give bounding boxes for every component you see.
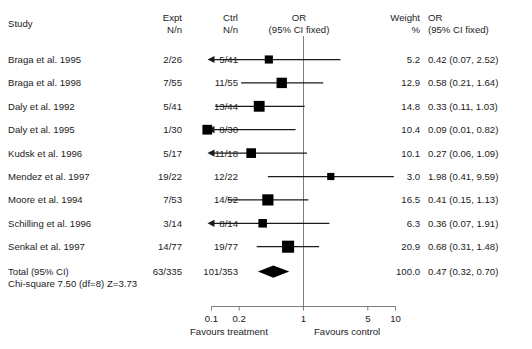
study-expt-n: 5/17	[130, 148, 182, 159]
effect-size-marker	[258, 219, 267, 228]
study-label: Daly et al. 1992	[8, 101, 75, 112]
study-ctrl-n: 8/30	[186, 124, 238, 135]
column-header-weight-sub: %	[372, 24, 420, 35]
study-expt-n: 3/14	[130, 218, 182, 229]
study-ctrl-n: 8/14	[186, 218, 238, 229]
study-label: Kudsk et al. 1996	[8, 148, 82, 159]
x-axis-tick-label: 10	[382, 313, 410, 324]
study-ctrl-n: 5/41	[186, 54, 238, 65]
study-ctrl-n: 13/44	[186, 101, 238, 112]
favours-treatment-label: Favours treatment	[190, 326, 268, 337]
study-or-value: 0.42 (0.07, 2.52)	[428, 54, 528, 65]
study-row-graphic	[228, 194, 309, 205]
total-label: Total (95% CI)	[8, 266, 69, 277]
effect-size-marker	[277, 78, 287, 88]
study-or-value: 0.41 (0.15, 1.13)	[428, 194, 528, 205]
study-expt-n: 14/77	[130, 241, 182, 252]
study-label: Moore et al. 1994	[8, 194, 83, 205]
effect-size-marker	[246, 148, 256, 158]
study-expt-n: 7/55	[130, 77, 182, 88]
study-ctrl-n: 14/52	[186, 194, 238, 205]
study-or-value: 0.36 (0.07, 1.91)	[428, 218, 528, 229]
favours-control-label: Favours control	[314, 326, 380, 337]
study-weight: 5.2	[372, 54, 420, 65]
study-or-value: 0.33 (0.11, 1.03)	[428, 101, 528, 112]
study-ctrl-n: 19/77	[186, 241, 238, 252]
effect-size-marker	[262, 194, 273, 205]
total-expt-n: 63/335	[130, 266, 182, 277]
study-expt-n: 5/41	[130, 101, 182, 112]
study-weight: 6.3	[372, 218, 420, 229]
study-or-value: 0.09 (0.01, 0.82)	[428, 124, 528, 135]
heterogeneity-stats: Chi-square 7.50 (df=8) Z=3.73	[8, 278, 137, 289]
study-expt-n: 2/26	[130, 54, 182, 65]
study-weight: 10.1	[372, 148, 420, 159]
study-weight: 10.4	[372, 124, 420, 135]
effect-size-marker	[265, 55, 273, 63]
study-weight: 20.9	[372, 241, 420, 252]
study-weight: 12.9	[372, 77, 420, 88]
study-or-value: 1.98 (0.41, 9.59)	[428, 171, 528, 182]
study-label: Mendez et al. 1997	[8, 171, 90, 182]
effect-size-marker	[327, 173, 334, 180]
x-axis-tick-label: 0.1	[198, 313, 226, 324]
column-header-expt-sub: N/n	[130, 24, 182, 35]
column-header-expt: Expt	[130, 12, 182, 23]
x-axis-tick-label: 5	[354, 313, 382, 324]
study-weight: 16.5	[372, 194, 420, 205]
study-or-value: 0.27 (0.06, 1.09)	[428, 148, 528, 159]
total-ctrl-n: 101/353	[186, 266, 238, 277]
study-label: Schilling et al. 1996	[8, 218, 91, 229]
study-ctrl-n: 11/18	[186, 148, 238, 159]
study-row-graphic	[241, 78, 323, 88]
column-header-weight: Weight	[372, 12, 420, 23]
column-header-or: OR	[213, 12, 385, 23]
column-header-or-right: OR	[428, 12, 528, 23]
column-header-or-right-sub: (95% CI fixed)	[428, 24, 528, 35]
effect-size-marker	[254, 101, 265, 112]
total-weight: 100.0	[372, 266, 420, 277]
effect-size-marker	[282, 241, 294, 253]
study-row-graphic	[257, 241, 319, 253]
study-label: Braga et al. 1998	[8, 77, 81, 88]
study-expt-n: 19/22	[130, 171, 182, 182]
study-label: Daly et al. 1995	[8, 124, 75, 135]
study-label: Braga et al. 1995	[8, 54, 81, 65]
study-or-value: 0.58 (0.21, 1.64)	[428, 77, 528, 88]
column-header-study: Study	[8, 18, 33, 29]
total-or-value: 0.47 (0.32, 0.70)	[428, 266, 528, 277]
study-expt-n: 7/53	[130, 194, 182, 205]
study-weight: 3.0	[372, 171, 420, 182]
column-header-or-sub: (95% CI fixed)	[213, 24, 385, 35]
study-ctrl-n: 11/55	[186, 77, 238, 88]
study-label: Senkal et al. 1997	[8, 241, 85, 252]
study-expt-n: 1/30	[130, 124, 182, 135]
x-axis-tick-label: 1	[290, 313, 318, 324]
summary-diamond	[258, 265, 289, 277]
study-or-value: 0.68 (0.31, 1.48)	[428, 241, 528, 252]
study-weight: 14.8	[372, 101, 420, 112]
study-ctrl-n: 12/22	[186, 171, 238, 182]
x-axis-tick-label: 0.2	[225, 313, 253, 324]
